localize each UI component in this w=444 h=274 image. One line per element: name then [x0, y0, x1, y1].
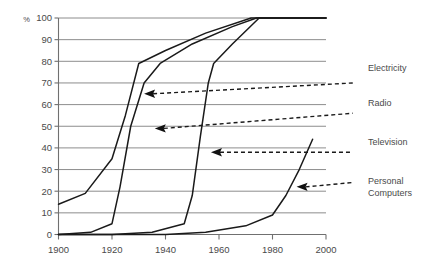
y-tick-label: 80: [41, 56, 52, 67]
annotation-leaders-group: [144, 83, 353, 191]
y-tick-label: 10: [41, 207, 52, 218]
legend-label-radio: Radio: [368, 98, 392, 108]
y-axis: [55, 18, 59, 235]
y-tick-label: 100: [36, 12, 52, 23]
x-tick-label: 1920: [101, 244, 122, 255]
y-tick-label: 90: [41, 34, 52, 45]
legend-labels-group: Electricity Radio Television Personal Co…: [368, 63, 413, 198]
x-tick-label: 1940: [155, 244, 176, 255]
x-tick-label: 2000: [315, 244, 336, 255]
y-tick-label: 40: [41, 142, 52, 153]
x-tick-labels: 190019201940196019802000: [48, 244, 337, 255]
legend-label-television: Television: [368, 137, 408, 147]
leader-line-electricity: [153, 83, 353, 94]
legend-label-electricity: Electricity: [368, 63, 407, 73]
x-tick-label: 1960: [208, 244, 229, 255]
y-tick-label: 30: [41, 164, 52, 175]
leader-line-personal-computers: [306, 183, 353, 187]
y-axis-unit-label: %: [23, 15, 30, 24]
chart-container: 0102030405060708090100 19001920194019601…: [0, 0, 444, 274]
legend-label-personal-computers-line2: Computers: [368, 188, 413, 198]
y-tick-label: 50: [41, 121, 52, 132]
x-tick-label: 1980: [262, 244, 283, 255]
adoption-curves-chart: 0102030405060708090100 19001920194019601…: [0, 0, 444, 274]
x-tick-label: 1900: [48, 244, 69, 255]
y-tick-label: 70: [41, 77, 52, 88]
y-tick-label: 0: [47, 229, 52, 240]
legend-label-personal-computers-line1: Personal: [368, 176, 404, 186]
y-tick-label: 20: [41, 186, 52, 197]
series-line-electricity: [59, 18, 327, 204]
y-tick-label: 60: [41, 99, 52, 110]
y-tick-labels: 0102030405060708090100: [36, 12, 52, 240]
